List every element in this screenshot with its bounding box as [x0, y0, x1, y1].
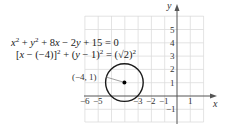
center-leader-line	[106, 77, 123, 82]
y-tick-label: 3	[170, 51, 175, 61]
grid	[85, 16, 204, 122]
y-tick-label: 2	[170, 64, 175, 74]
x-axis-label: x	[212, 98, 218, 109]
center-label: (−4, 1)	[72, 72, 97, 82]
x-tick-label: 1	[188, 96, 193, 106]
y-axis-arrow-icon	[175, 4, 180, 11]
y-tick-label: −1	[166, 104, 176, 114]
x-tick-label: −6	[80, 96, 90, 106]
y-tick-label: 4	[170, 38, 175, 48]
x-tick-label: −3	[133, 96, 143, 106]
x-tick-label: −5	[93, 96, 103, 106]
coordinate-plane: x y −6 −5 −3 −2 −1 1 5 4 3 2 1 −1 (−4, 1…	[0, 0, 239, 136]
equation-standard-form: [x − (−4)]2 + (y − 1)2 = (√2)2	[16, 49, 136, 60]
y-axis-label: y	[166, 0, 172, 11]
y-tick-label: 1	[170, 78, 175, 88]
x-tick-label: −2	[146, 96, 156, 106]
y-tick-label: 5	[170, 25, 175, 35]
equation-general-form: x2 + y2 + 8x − 2y + 15 = 0	[11, 37, 119, 48]
center-point	[122, 81, 126, 85]
axes	[84, 4, 217, 124]
